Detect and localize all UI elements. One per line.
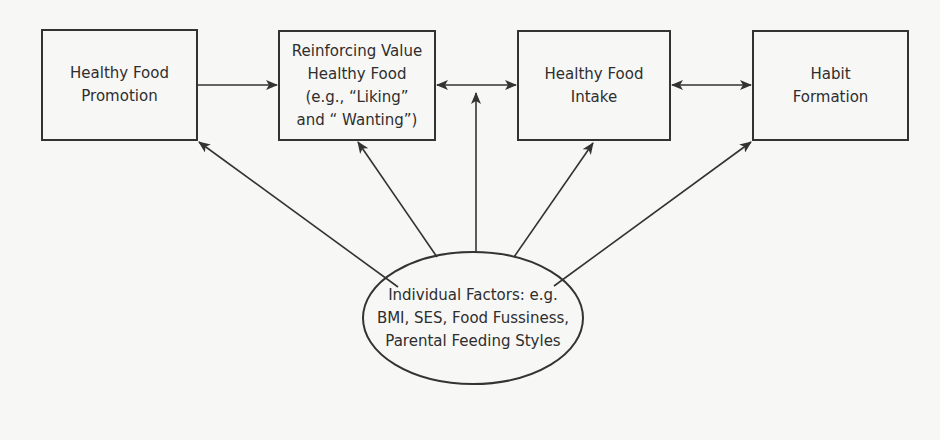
arrow-individual-to-promotion: [199, 142, 398, 287]
diagram-canvas: Healthy Food Promotion Reinforcing Value…: [0, 0, 940, 440]
arrow-individual-to-intake: [514, 143, 593, 257]
arrow-individual-to-reinforcing: [358, 142, 437, 257]
node-label: Habit Formation: [793, 63, 869, 109]
node-label: Individual Factors: e.g. BMI, SES, Food …: [377, 284, 569, 353]
arrow-individual-to-habit: [554, 142, 751, 286]
node-healthy-food-intake: Healthy Food Intake: [517, 30, 671, 141]
node-habit-formation: Habit Formation: [752, 30, 909, 141]
node-label: Reinforcing Value Healthy Food (e.g., “L…: [292, 40, 422, 132]
node-individual-factors: Individual Factors: e.g. BMI, SES, Food …: [363, 272, 583, 364]
node-label: Healthy Food Intake: [545, 63, 644, 109]
node-reinforcing-value: Reinforcing Value Healthy Food (e.g., “L…: [278, 30, 436, 141]
node-label: Healthy Food Promotion: [70, 62, 169, 108]
node-healthy-food-promotion: Healthy Food Promotion: [41, 29, 198, 141]
